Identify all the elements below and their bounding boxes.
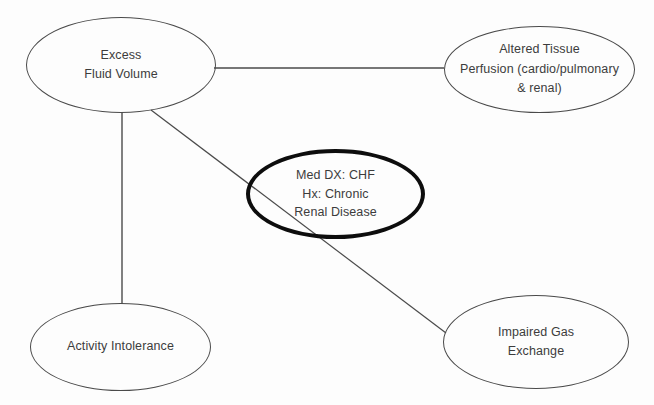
node-label: Excess Fluid Volume [84, 46, 157, 85]
node-altered-tissue-perfusion[interactable]: Altered Tissue Perfusion (cardio/pulmona… [444, 26, 635, 113]
node-label: Activity Intolerance [67, 337, 174, 356]
concept-map-canvas: Excess Fluid Volume Altered Tissue Perfu… [0, 0, 654, 405]
node-activity-intolerance[interactable]: Activity Intolerance [30, 303, 211, 391]
node-excess-fluid-volume[interactable]: Excess Fluid Volume [26, 17, 216, 113]
node-label: Altered Tissue Perfusion (cardio/pulmona… [460, 40, 619, 98]
node-impaired-gas-exchange[interactable]: Impaired Gas Exchange [443, 295, 629, 389]
node-label: Med DX: CHF Hx: Chronic Renal Disease [294, 166, 377, 222]
node-label: Impaired Gas Exchange [498, 323, 574, 362]
node-medical-diagnosis-chf[interactable]: Med DX: CHF Hx: Chronic Renal Disease [246, 149, 425, 239]
